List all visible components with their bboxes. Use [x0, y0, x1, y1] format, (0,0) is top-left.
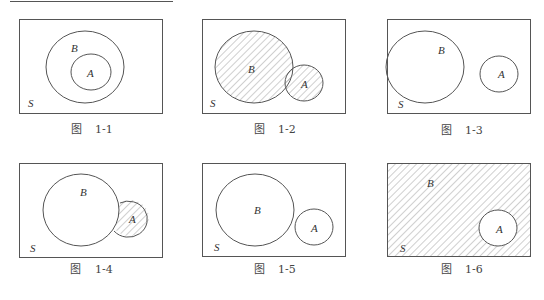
figure-1-2: B A S 图 1-2	[203, 20, 346, 137]
label-s: S	[400, 242, 406, 254]
label-b: B	[427, 177, 434, 189]
label-a: A	[310, 222, 318, 234]
caption-prefix: 图	[71, 123, 82, 136]
label-b: B	[438, 44, 445, 56]
set-b-circle	[386, 31, 464, 103]
caption-number: 1-4	[95, 263, 113, 276]
caption-prefix: 图	[441, 263, 452, 276]
set-b-circle	[46, 31, 124, 103]
label-a: A	[497, 68, 505, 80]
caption-number: 1-2	[278, 123, 296, 136]
label-s: S	[30, 242, 36, 254]
figure-1-5: B A S 图 1-5	[203, 164, 346, 277]
label-a: A	[128, 213, 136, 225]
set-b-circle	[43, 174, 119, 246]
label-s: S	[214, 241, 220, 253]
figure-1-3: B A S 图 1-3	[386, 20, 531, 138]
caption-number: 1-6	[465, 263, 483, 276]
caption-prefix: 图	[70, 263, 81, 276]
label-b: B	[71, 42, 78, 54]
label-a: A	[86, 67, 94, 79]
label-b: B	[248, 63, 255, 75]
caption-prefix: 图	[441, 124, 452, 137]
label-a: A	[495, 223, 503, 235]
caption-number: 1-3	[465, 124, 483, 137]
caption-prefix: 图	[254, 263, 265, 276]
label-b: B	[80, 186, 87, 198]
label-s: S	[28, 97, 34, 109]
caption-prefix: 图	[254, 123, 265, 136]
label-a: A	[300, 78, 308, 90]
figure-1-6: B A S 图 1-6	[388, 164, 531, 277]
label-s: S	[210, 97, 216, 109]
label-s: S	[398, 98, 404, 110]
figure-1-4: B A S 图 1-4	[20, 164, 163, 277]
caption-number: 1-1	[95, 123, 113, 136]
figure-1-1: B A S 图 1-1	[20, 20, 163, 137]
caption-number: 1-5	[278, 263, 296, 276]
venn-diagrams: B A S 图 1-1 B A S 图 1-2 B A S 图 1-3 B A …	[0, 0, 544, 300]
label-b: B	[254, 204, 261, 216]
